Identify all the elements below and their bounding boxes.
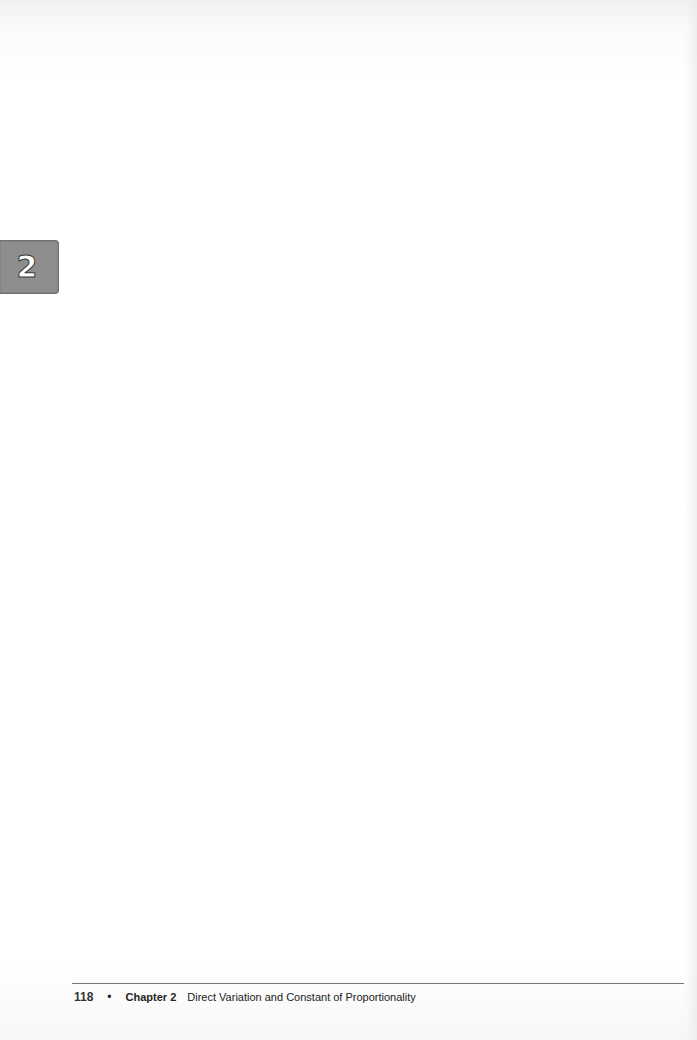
bullet-separator-icon: •	[107, 990, 111, 1004]
chapter-label: Chapter 2	[126, 991, 177, 1003]
footer-divider	[72, 983, 684, 984]
chapter-tab-number: 2	[17, 252, 38, 282]
book-page: 2 118 • Chapter 2 Direct Variation and C…	[0, 0, 697, 1040]
chapter-tab: 2	[0, 240, 59, 294]
chapter-title: Direct Variation and Constant of Proport…	[187, 991, 415, 1003]
page-number: 118	[74, 990, 93, 1004]
page-footer: 118 • Chapter 2 Direct Variation and Con…	[74, 990, 416, 1004]
